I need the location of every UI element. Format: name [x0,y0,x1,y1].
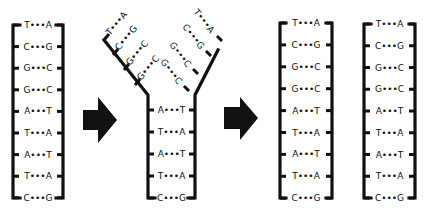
daughter-dna-ladder-2: T•••AC•••GG•••CG•••CA•••TT•••AA•••TT•••A… [364,19,415,203]
rung-right [184,86,189,91]
base-pair-label: T•••A [291,128,320,138]
base-pair-label: G•••C [375,63,404,73]
base-pair-label: T•••A [23,128,52,138]
base-pair-label: A•••T [24,106,52,116]
dna-replication-diagram: T•••AC•••GG•••CG•••CA•••TT•••AA•••TT•••A… [0,0,429,214]
base-pair-label: T•••A [291,171,320,181]
base-pair-label: G•••C [23,63,52,73]
base-pair-label: C•••G [375,41,404,51]
original-dna-ladder: T•••AC•••GG•••CG•••CA•••TT•••AA•••TT•••A… [13,20,63,203]
rung-right [206,51,211,56]
base-pair-label: T•••A [157,127,186,137]
base-pair-label: G•••C [375,84,404,94]
base-pair-label: A•••T [24,150,52,160]
rung-right [193,69,198,74]
base-pair-label: C•••G [375,193,404,203]
base-pair-label: A•••T [376,150,404,160]
base-pair-label: T•••A [291,18,320,28]
base-pair-label: C•••G [157,193,186,203]
base-pair-label: A•••T [292,149,320,159]
rung-right [217,36,222,41]
right-arrow-icon [83,97,117,143]
base-pair-label: A•••T [376,106,404,116]
replication-fork: A•••TT•••AA•••TT•••AC•••GT•••AC•••GG•••C… [103,6,222,203]
base-pair-label: G•••C [23,85,52,95]
base-pair-label: A•••T [292,106,320,116]
base-pair-label: G•••C [291,84,320,94]
right-arrow-icon [224,97,258,140]
base-pair-label: T•••A [23,171,52,181]
base-pair-label: C•••G [291,193,320,203]
base-pair-label: T•••A [375,128,404,138]
base-pair-label: T•••A [23,20,52,30]
base-pair-label: A•••T [158,149,186,159]
base-pair-label: T•••A [375,171,404,181]
daughter-dna-ladder-1: T•••AC•••GG•••CG•••CA•••TT•••AA•••TT•••A… [280,18,332,203]
base-pair-label: G•••C [291,62,320,72]
base-pair-label: C•••G [23,42,52,52]
base-pair-label: T•••A [157,171,186,181]
base-pair-label: T•••A [375,19,404,29]
base-pair-label: C•••G [23,193,52,203]
base-pair-label: A•••T [158,105,186,115]
base-pair-label: C•••G [291,40,320,50]
